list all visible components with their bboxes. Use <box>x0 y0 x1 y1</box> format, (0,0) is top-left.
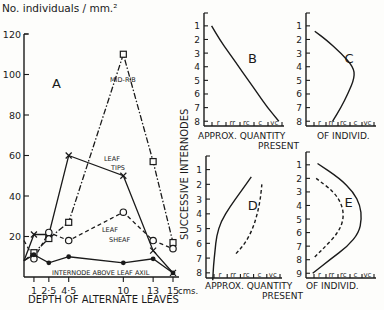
marker-dot <box>66 254 71 259</box>
marker-circle <box>46 229 52 235</box>
x-tick-label: vc <box>363 271 371 279</box>
y-tick-label: 7 <box>196 254 202 264</box>
panel-a: 2040608010012012·54·5101315 <box>3 29 179 297</box>
y-tick-label: 6 <box>196 239 202 249</box>
marker-circle <box>120 209 126 215</box>
marker-square <box>120 51 126 57</box>
y-tick-label: 6 <box>296 228 302 238</box>
y-tick-label: 3 <box>296 187 302 197</box>
x-tick-label: rc <box>340 119 347 127</box>
x-tick-label: 13 <box>147 285 159 296</box>
x-tick-label: rr <box>230 271 236 279</box>
x-unit-label: cms. <box>178 286 198 296</box>
y-tick-label: 80 <box>9 110 21 121</box>
marker-dot <box>32 252 37 257</box>
y-tick-label: 6 <box>194 89 200 99</box>
panel-b-curve-solid <box>212 26 279 121</box>
marker-square <box>170 240 176 246</box>
y-tick-label: 40 <box>9 191 21 202</box>
y-tick-label: 8 <box>296 255 302 265</box>
vertical-title: SUCCESSIVE INTERNODES <box>179 109 190 240</box>
x-tick-label: rc <box>340 271 347 279</box>
y-tick-label: 120 <box>3 29 21 40</box>
x-tick-label: rc <box>243 119 250 127</box>
panel-label-b: B <box>248 51 257 66</box>
marker-circle <box>150 237 156 243</box>
y-tick-label: 1 <box>196 165 202 175</box>
y-axis-title: No. individuals / mm.² <box>2 2 117 14</box>
y-tick-label: 1 <box>194 21 200 31</box>
figure: No. individuals / mm.² A MID-RIB LEAF TI… <box>0 0 384 310</box>
panel-e-xlabel: OF INDIVID. <box>306 281 359 291</box>
marker-dot <box>151 256 156 261</box>
panel-label-d: D <box>248 198 258 213</box>
y-tick-label: 2 <box>196 180 202 190</box>
x-tick-label: rr <box>229 119 235 127</box>
y-tick-label: 3 <box>196 195 202 205</box>
x-tick-label: 15 <box>167 285 179 296</box>
series-label-leaf-tips-2: TIPS <box>110 164 125 172</box>
y-tick-label: 8 <box>196 268 202 278</box>
x-tick-label: 4·5 <box>61 285 76 296</box>
panel-e-curve-solid <box>313 163 361 273</box>
y-tick-label: 4 <box>194 62 200 72</box>
y-tick-label: 20 <box>9 231 21 242</box>
y-tick-label: 9 <box>296 269 302 279</box>
marker-cross <box>150 248 156 254</box>
panel-label-a: A <box>52 76 61 91</box>
series-label-leaf-sheaf-2: SHEAF <box>109 236 131 244</box>
y-tick-label: 5 <box>296 215 302 225</box>
x-tick-label: 10 <box>117 285 129 296</box>
y-tick-label: 5 <box>194 76 200 86</box>
panel-c-xlabel: OF INDIVID. <box>317 131 370 141</box>
series-label-leaf-sheaf-1: LEAF <box>102 226 118 234</box>
marker-circle <box>170 245 176 251</box>
y-tick-label: 5 <box>196 224 202 234</box>
panel-label-e: E <box>345 195 353 210</box>
series-label-internode: INTERNODE ABOVE LEAF AXIL <box>52 269 150 277</box>
x-tick-label: r <box>318 119 321 127</box>
marker-circle <box>66 237 72 243</box>
y-tick-label: 8 <box>296 117 302 127</box>
y-tick-label: 1 <box>296 21 302 31</box>
x-tick-label: c <box>258 271 262 279</box>
x-tick-label: 1 <box>31 285 37 296</box>
y-tick-label: 4 <box>296 62 302 72</box>
x-tick-label: c <box>258 119 262 127</box>
x-tick-label: c <box>353 271 357 279</box>
marker-cross <box>120 173 126 179</box>
x-tick-label: r <box>217 119 220 127</box>
panel-b-xlabel-2: PRESENT <box>258 141 299 151</box>
panel-b-xlabel-1: APPROX. QUANTITY <box>198 131 286 141</box>
x-tick-label: vc <box>363 119 371 127</box>
series-label-leaf-tips-1: LEAF <box>104 155 120 163</box>
x-tick-label: r <box>218 271 221 279</box>
x-tick-label: 2·5 <box>41 285 56 296</box>
y-tick-label: 7 <box>296 103 302 113</box>
y-tick-label: 8 <box>194 117 200 127</box>
marker-dot <box>46 260 51 265</box>
y-tick-label: 3 <box>194 49 200 59</box>
y-tick-label: 3 <box>296 49 302 59</box>
y-tick-label: 4 <box>196 209 202 219</box>
panel-d-curve-solid <box>213 177 252 280</box>
x-tick-label: r <box>318 271 321 279</box>
x-tick-label: vc <box>269 271 277 279</box>
y-tick-label: 5 <box>296 76 302 86</box>
y-tick-label: 2 <box>194 35 200 45</box>
y-tick-label: 7 <box>296 242 302 252</box>
panel-d-xlabel-2: PRESENT <box>262 291 303 301</box>
y-tick-label: 1 <box>296 160 302 170</box>
y-tick-label: 60 <box>9 150 21 161</box>
marker-square <box>66 219 72 225</box>
panel-c-curve-solid <box>315 31 354 121</box>
panel-d-xlabel-1: APPROX. QUANTITY <box>205 281 293 291</box>
series-line-leaf-tips <box>24 156 173 273</box>
x-tick-label: c <box>353 119 357 127</box>
marker-dot <box>171 271 176 276</box>
marker-square <box>150 159 156 165</box>
y-tick-label: 4 <box>296 201 302 211</box>
marker-dot <box>121 260 126 265</box>
y-tick-label: 2 <box>296 174 302 184</box>
x-tick-label: rr <box>329 271 335 279</box>
